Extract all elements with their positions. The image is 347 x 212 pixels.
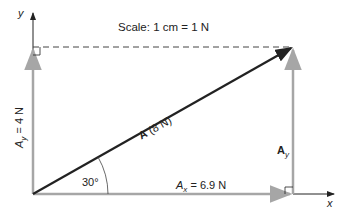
ay-left-label: Ay = 4 N (14, 107, 28, 148)
ax-label: Ax = 6.9 N (176, 180, 226, 194)
angle-arc (98, 157, 108, 194)
x-axis-label: x (327, 198, 333, 209)
ay-left-sub: y (19, 137, 28, 141)
ay-right-sub: y (285, 150, 289, 159)
ay-left-name: A (13, 141, 25, 148)
angle-label: 30° (82, 177, 99, 188)
ay-right-label: Ay (277, 145, 289, 159)
ay-left-value: = 4 N (13, 107, 25, 134)
ax-value: = 6.9 N (190, 179, 226, 191)
ay-right-name: A (277, 144, 285, 156)
scale-label: Scale: 1 cm = 1 N (118, 22, 209, 34)
y-axis-label: y (18, 8, 24, 19)
ax-sub: x (183, 185, 187, 194)
